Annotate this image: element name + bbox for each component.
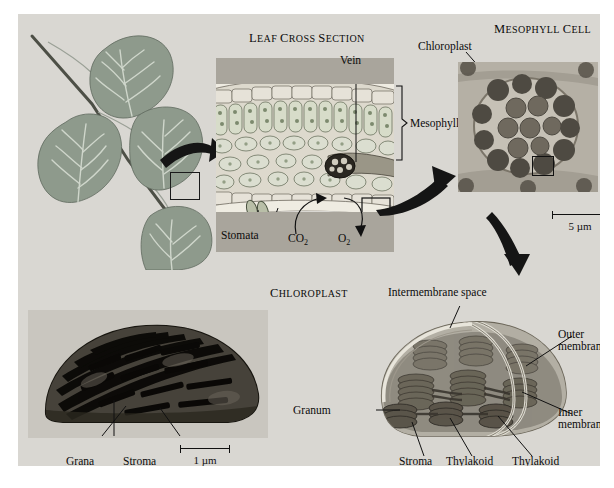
thylakoid-label: Thylakoid [446,455,493,466]
mesophyll-cell-heading: MESOPHYLL CELL [494,22,591,37]
chloroplast-tem-micrograph [28,310,268,438]
grana-label-tem: Grana [66,455,94,466]
mesophyll-cell-inset-box [532,156,554,176]
chloroplast-label-micrograph: Chloroplast [418,40,472,52]
co2-label: CO2 [288,232,308,249]
mesophyll-bracket [394,86,410,160]
gas-exchange-arrows [286,194,378,236]
chloroplast-heading: CHLOROPLAST [270,286,348,301]
outer-membrane-label: Outer membrane [558,328,600,352]
stomata-label: Stomata [221,229,259,241]
stroma-label-tem: Stroma [123,455,156,466]
mesophyll-cell-micrograph [458,62,598,192]
intermembrane-space-label: Intermembrane space [388,286,487,298]
thylakoid-compartment-label: Thylakoid compartment [512,455,588,466]
figure-panel: LLeaf cross sectionEAF CROSS SECTION [18,14,600,466]
mesophyll-label: Mesophyll [410,117,459,129]
inner-membrane-label: Inner membrane [558,406,600,430]
leaf-inset-box [170,172,200,200]
granum-label: Granum [293,404,331,416]
leaf-cross-section-heading: LLeaf cross sectionEAF CROSS SECTION [249,31,365,46]
chloroplast-3d-diagram [376,306,572,456]
arrow-to-chloroplast [488,210,558,276]
o2-label: O2 [338,232,350,249]
leaf-plant-illustration [20,20,216,270]
vein-label: Vein [340,54,361,66]
stroma-label-3d: Stroma [399,455,432,466]
